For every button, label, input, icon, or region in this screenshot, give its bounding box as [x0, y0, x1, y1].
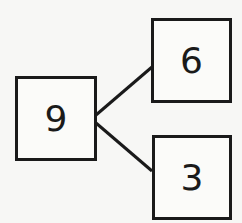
connector-whole-to-part2 — [96, 123, 152, 171]
whole-value: 9 — [45, 98, 68, 139]
part-value-top: 6 — [180, 40, 203, 81]
connector-whole-to-part1 — [96, 67, 152, 115]
part-box-bottom: 3 — [152, 135, 232, 220]
part-value-bottom: 3 — [181, 157, 204, 198]
whole-box: 9 — [15, 76, 97, 161]
part-box-top: 6 — [151, 18, 232, 103]
